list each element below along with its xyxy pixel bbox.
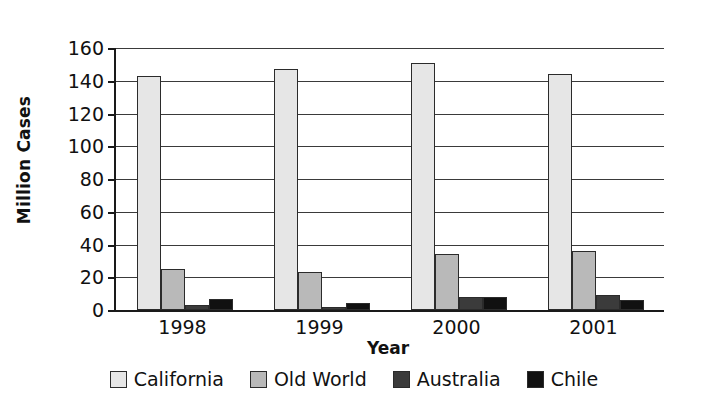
bar[interactable] [137, 76, 161, 310]
legend-label: Chile [551, 370, 599, 389]
bar[interactable] [620, 300, 644, 310]
bar-group-bars [390, 48, 527, 310]
bar-group [116, 48, 253, 310]
plot-area [114, 48, 664, 312]
x-axis-tick-label: 2000 [388, 314, 525, 340]
legend-item[interactable]: Australia [393, 370, 501, 389]
bar-group-bars [116, 48, 253, 310]
bar[interactable] [298, 272, 322, 310]
y-axis-tick-label: 60 [80, 202, 104, 221]
y-axis-tick-mark [108, 277, 116, 279]
y-axis-title-text: Million Cases [14, 96, 34, 224]
y-axis-tick-label: 80 [80, 170, 104, 189]
bar-group [253, 48, 390, 310]
legend-item[interactable]: Chile [527, 370, 599, 389]
bar[interactable] [161, 269, 185, 310]
legend-swatch-icon [110, 371, 127, 388]
bar[interactable] [411, 63, 435, 310]
bar[interactable] [596, 295, 620, 310]
y-axis-tick-label: 20 [80, 268, 104, 287]
x-axis-title: Year [114, 338, 662, 358]
y-axis-tick-mark [108, 81, 116, 83]
y-axis-tick-mark [108, 179, 116, 181]
bar-group [527, 48, 664, 310]
y-axis-tick-label: 0 [92, 301, 104, 320]
bar[interactable] [548, 74, 572, 310]
y-axis-tick-label: 120 [68, 104, 104, 123]
legend-item[interactable]: California [110, 370, 224, 389]
y-axis-tick-mark [108, 212, 116, 214]
chart-legend: CaliforniaOld WorldAustraliaChile [0, 362, 708, 396]
x-axis-tick-labels: 1998199920002001 [114, 314, 662, 340]
y-axis-tick-label: 140 [68, 71, 104, 90]
bar-group-bars [253, 48, 390, 310]
x-axis-tick-label: 1998 [114, 314, 251, 340]
bar[interactable] [209, 299, 233, 310]
bar[interactable] [346, 303, 370, 310]
y-axis-tick-label: 40 [80, 235, 104, 254]
bar[interactable] [185, 305, 209, 310]
bar[interactable] [459, 297, 483, 310]
y-axis-tick-mark [108, 48, 116, 50]
bar[interactable] [322, 307, 346, 310]
legend-swatch-icon [250, 371, 267, 388]
legend-swatch-icon [527, 371, 544, 388]
y-axis-tick-mark [108, 245, 116, 247]
legend-swatch-icon [393, 371, 410, 388]
y-axis-tick-label: 100 [68, 137, 104, 156]
y-axis-tick-mark [108, 114, 116, 116]
bar-groups [116, 48, 664, 310]
legend-item[interactable]: Old World [250, 370, 367, 389]
bar-chart-figure: Million Cases 020406080100120140160 1998… [0, 0, 708, 402]
x-axis-tick-label: 1999 [251, 314, 388, 340]
y-axis-tick-labels: 020406080100120140160 [44, 38, 112, 320]
y-axis-tick-mark [108, 146, 116, 148]
x-axis-tick-label: 2001 [525, 314, 662, 340]
y-axis-title: Million Cases [4, 0, 44, 320]
legend-label: Old World [274, 370, 367, 389]
bar[interactable] [572, 251, 596, 310]
y-axis-tick-mark [108, 310, 116, 312]
legend-label: California [134, 370, 224, 389]
bar-group [390, 48, 527, 310]
bar[interactable] [274, 69, 298, 310]
bar[interactable] [483, 297, 507, 310]
legend-label: Australia [417, 370, 501, 389]
y-axis-tick-label: 160 [68, 39, 104, 58]
bar[interactable] [435, 254, 459, 310]
bar-group-bars [527, 48, 664, 310]
